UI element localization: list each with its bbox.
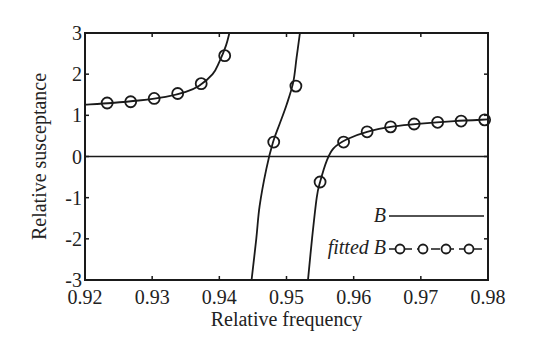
legend: B fitted B	[328, 204, 487, 259]
chart-canvas: 0.920.930.940.950.960.970.98 -3-2-10123 …	[0, 0, 538, 347]
x-tick-label: 0.93	[135, 286, 170, 308]
x-axis-label: Relative frequency	[211, 308, 363, 331]
legend-label-b: B	[374, 204, 386, 226]
x-tick-label: 0.94	[202, 286, 237, 308]
fitted-marker	[219, 50, 230, 61]
x-axis-ticks: 0.920.930.940.950.960.970.98	[68, 33, 506, 308]
chart: 0.920.930.940.950.960.970.98 -3-2-10123 …	[0, 0, 538, 347]
y-tick-label: 2	[72, 63, 82, 85]
y-tick-label: 1	[72, 104, 82, 126]
x-tick-label: 0.95	[269, 286, 304, 308]
legend-label-fitted-b: fitted B	[328, 236, 386, 259]
legend-swatch-circle-markers	[389, 245, 487, 254]
y-tick-label: -3	[65, 269, 82, 291]
legend-marker	[465, 245, 474, 254]
x-tick-label: 0.98	[471, 286, 506, 308]
legend-marker	[396, 245, 405, 254]
fitted-marker	[338, 137, 349, 148]
y-axis-label: Relative susceptance	[28, 73, 51, 240]
y-tick-label: 3	[72, 22, 82, 44]
legend-marker	[419, 245, 428, 254]
legend-marker	[442, 245, 451, 254]
y-tick-label: -2	[65, 228, 82, 250]
y-tick-label: -1	[65, 187, 82, 209]
x-tick-label: 0.97	[403, 286, 438, 308]
x-tick-label: 0.96	[336, 286, 371, 308]
y-tick-label: 0	[72, 146, 82, 168]
